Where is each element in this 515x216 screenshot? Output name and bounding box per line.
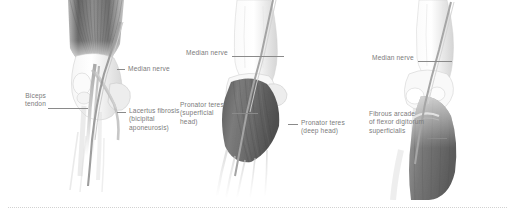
panel-fibrous-arcade: Median nerve Fibrous arcade of flexor di…: [355, 0, 515, 200]
label-pronator-teres-deep: Pronator teres (deep head): [301, 119, 357, 136]
label-biceps-tendon: Biceps tendon: [2, 92, 46, 109]
panel-pronator-teres: Median nerve Pronator teres (superficial…: [175, 0, 355, 200]
leader-pronator-teres-superficial: [232, 113, 258, 114]
label-median-nerve-1: Median nerve: [128, 65, 180, 73]
leader-biceps-tendon: [48, 108, 88, 109]
leader-fibrous-arcade: [427, 138, 447, 139]
leader-median-nerve-1: [117, 69, 125, 70]
anatomy-figure: Biceps tendon Median nerve Lacertus fibr…: [0, 0, 515, 216]
soft-tissue-shading: [393, 150, 401, 200]
leader-pronator-teres-deep: [288, 124, 298, 125]
elbow-bones: [72, 53, 131, 180]
panel-3-illustration: [355, 0, 515, 200]
panel-2-illustration: [175, 0, 355, 200]
leader-median-nerve-3: [418, 61, 452, 62]
label-fibrous-arcade: Fibrous arcade of flexor digitorum super…: [369, 110, 439, 135]
label-pronator-teres-superficial: Pronator teres (superficial head): [180, 101, 236, 126]
leader-median-nerve-2: [232, 56, 284, 57]
leader-lacertus-fibrosis: [117, 112, 126, 113]
panel-anterior-elbow: Biceps tendon Median nerve Lacertus fibr…: [0, 0, 175, 200]
footer-divider: [8, 207, 507, 208]
